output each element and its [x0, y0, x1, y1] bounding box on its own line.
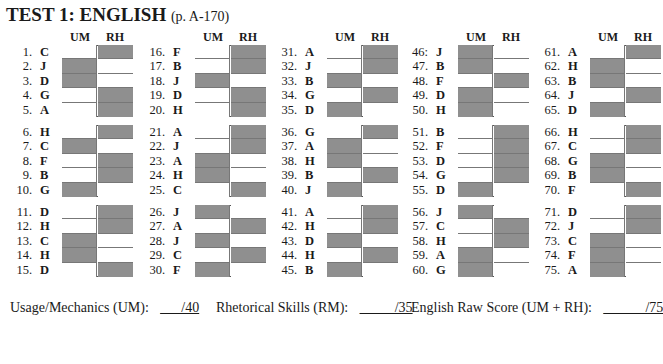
rh-cell-shaded[interactable]: [363, 59, 398, 73]
um-cell[interactable]: [327, 248, 362, 262]
rh-cell[interactable]: [98, 234, 133, 248]
um-cell-shaded[interactable]: [62, 59, 97, 73]
rh-cell-shaded[interactable]: [231, 45, 266, 59]
um-cell-shaded[interactable]: [458, 263, 493, 277]
rh-cell[interactable]: [494, 103, 529, 117]
rh-cell[interactable]: [626, 248, 661, 262]
um-cell[interactable]: [458, 139, 493, 153]
um-cell-shaded[interactable]: [458, 88, 493, 102]
rh-cell-shaded[interactable]: [626, 205, 661, 219]
um-cell-shaded[interactable]: [62, 139, 97, 153]
rh-cell-shaded[interactable]: [98, 45, 133, 59]
rh-cell[interactable]: [363, 263, 398, 277]
um-cell-shaded[interactable]: [327, 154, 362, 168]
um-cell[interactable]: [590, 183, 625, 197]
um-cell[interactable]: [458, 154, 493, 168]
rh-cell[interactable]: [363, 74, 398, 88]
um-cell[interactable]: [590, 139, 625, 153]
um-cell[interactable]: [62, 168, 97, 182]
rh-cell-shaded[interactable]: [494, 154, 529, 168]
um-cell-shaded[interactable]: [62, 183, 97, 197]
rh-cell-shaded[interactable]: [98, 125, 133, 139]
rh-cell-shaded[interactable]: [626, 88, 661, 102]
rh-cell-shaded[interactable]: [626, 183, 661, 197]
um-cell-shaded[interactable]: [62, 248, 97, 262]
um-cell[interactable]: [327, 125, 362, 139]
um-cell[interactable]: [195, 248, 230, 262]
rh-cell-shaded[interactable]: [363, 205, 398, 219]
um-cell[interactable]: [458, 219, 493, 233]
um-cell-shaded[interactable]: [458, 248, 493, 262]
rh-cell-shaded[interactable]: [231, 88, 266, 102]
um-cell[interactable]: [327, 59, 362, 73]
rh-cell[interactable]: [363, 139, 398, 153]
um-cell[interactable]: [327, 168, 362, 182]
rh-cell[interactable]: [626, 263, 661, 277]
rh-cell-shaded[interactable]: [98, 205, 133, 219]
um-cell-shaded[interactable]: [195, 234, 230, 248]
um-cell[interactable]: [327, 45, 362, 59]
rh-cell[interactable]: [626, 74, 661, 88]
rh-cell[interactable]: [231, 154, 266, 168]
rh-cell-shaded[interactable]: [231, 59, 266, 73]
um-cell[interactable]: [195, 125, 230, 139]
rh-cell[interactable]: [231, 168, 266, 182]
um-cell-shaded[interactable]: [458, 59, 493, 73]
um-cell-shaded[interactable]: [195, 263, 230, 277]
rh-cell[interactable]: [98, 59, 133, 73]
um-cell[interactable]: [62, 125, 97, 139]
rh-cell[interactable]: [363, 103, 398, 117]
rh-cell-shaded[interactable]: [626, 45, 661, 59]
um-cell[interactable]: [458, 234, 493, 248]
um-cell-shaded[interactable]: [590, 154, 625, 168]
um-cell[interactable]: [195, 103, 230, 117]
um-cell[interactable]: [195, 88, 230, 102]
um-cell-shaded[interactable]: [590, 74, 625, 88]
um-cell-shaded[interactable]: [327, 183, 362, 197]
um-cell-shaded[interactable]: [327, 103, 362, 117]
um-cell[interactable]: [62, 205, 97, 219]
um-cell-shaded[interactable]: [195, 154, 230, 168]
um-cell-shaded[interactable]: [327, 139, 362, 153]
um-cell-shaded[interactable]: [195, 205, 230, 219]
um-cell[interactable]: [458, 125, 493, 139]
rh-cell[interactable]: [626, 154, 661, 168]
rh-cell-shaded[interactable]: [494, 125, 529, 139]
um-cell-shaded[interactable]: [458, 103, 493, 117]
rh-cell-shaded[interactable]: [494, 219, 529, 233]
um-cell-shaded[interactable]: [458, 183, 493, 197]
um-cell[interactable]: [62, 45, 97, 59]
um-cell[interactable]: [590, 88, 625, 102]
um-cell[interactable]: [590, 125, 625, 139]
rh-cell-shaded[interactable]: [231, 183, 266, 197]
rh-cell-shaded[interactable]: [363, 88, 398, 102]
um-cell[interactable]: [327, 219, 362, 233]
rh-cell-shaded[interactable]: [231, 103, 266, 117]
rh-cell[interactable]: [494, 248, 529, 262]
um-cell[interactable]: [590, 219, 625, 233]
rh-cell-shaded[interactable]: [231, 139, 266, 153]
rh-cell-shaded[interactable]: [626, 125, 661, 139]
um-cell[interactable]: [458, 168, 493, 182]
rh-cell[interactable]: [98, 74, 133, 88]
um-cell[interactable]: [195, 219, 230, 233]
rh-cell-shaded[interactable]: [98, 154, 133, 168]
rh-cell[interactable]: [231, 205, 266, 219]
rh-cell[interactable]: [98, 183, 133, 197]
um-cell[interactable]: [62, 88, 97, 102]
rh-cell-shaded[interactable]: [363, 248, 398, 262]
um-cell-shaded[interactable]: [62, 74, 97, 88]
um-cell[interactable]: [590, 45, 625, 59]
raw-score-blank[interactable]: ______/75: [603, 300, 663, 316]
um-cell[interactable]: [195, 45, 230, 59]
um-cell[interactable]: [62, 263, 97, 277]
rh-cell[interactable]: [626, 234, 661, 248]
um-cell-shaded[interactable]: [590, 234, 625, 248]
um-cell-shaded[interactable]: [327, 263, 362, 277]
rh-cell[interactable]: [494, 263, 529, 277]
rh-cell-shaded[interactable]: [98, 263, 133, 277]
um-cell[interactable]: [195, 59, 230, 73]
um-cell-shaded[interactable]: [327, 234, 362, 248]
um-cell[interactable]: [327, 88, 362, 102]
um-cell-shaded[interactable]: [590, 168, 625, 182]
